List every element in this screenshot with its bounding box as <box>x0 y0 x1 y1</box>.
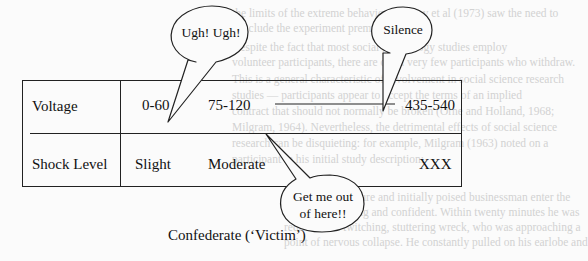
figure-caption: Confederate (‘Victim’) <box>168 226 306 244</box>
bubble-text-get-me-out-line2: of here!! <box>287 206 359 222</box>
speech-bubble-ugh <box>168 6 248 122</box>
bubble-text-silence: Silence <box>378 22 428 38</box>
bubble-text-ugh: Ugh! Ugh! <box>181 25 241 41</box>
bubble-text-get-me-out-line1: Get me out <box>287 189 359 205</box>
